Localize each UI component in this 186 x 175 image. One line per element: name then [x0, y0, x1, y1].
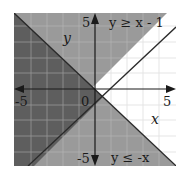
- axis-label-y: y: [62, 30, 72, 46]
- tick-label-x-min: -5: [15, 94, 28, 109]
- inequality-graph: 5 -5 -5 5 0 y x y ≥ x - 1 y ≤ -x: [0, 0, 186, 175]
- inequality-label-2: y ≤ -x: [110, 150, 150, 165]
- inequality-label-1: y ≥ x - 1: [108, 15, 164, 30]
- tick-label-origin: 0: [81, 94, 89, 109]
- tick-label-y-min: -5: [77, 151, 90, 166]
- tick-label-x-max: 5: [163, 94, 171, 109]
- axis-label-x: x: [151, 111, 159, 127]
- tick-label-y-max: 5: [82, 15, 90, 30]
